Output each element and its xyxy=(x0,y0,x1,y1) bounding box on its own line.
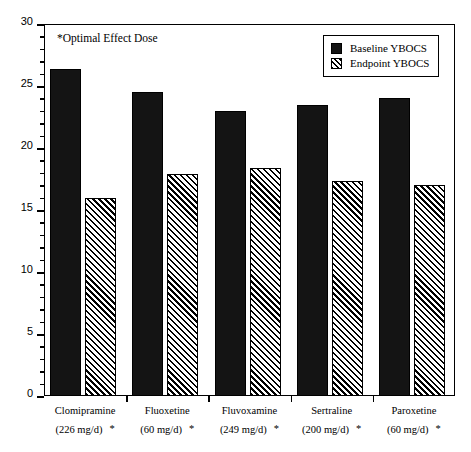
legend-label-baseline: Baseline YBOCS xyxy=(350,42,427,55)
x-axis-category-name: Paroxetine xyxy=(361,402,467,420)
bar-chart-figure: 051015202530 Clomipramine(226 mg/d)*Fluo… xyxy=(0,0,471,452)
y-axis-tick-mark xyxy=(37,210,44,212)
chart-legend: Baseline YBOCS Endpoint YBOCS xyxy=(323,35,439,77)
x-axis-category-dose: (60 mg/d)* xyxy=(361,420,467,439)
optimal-dose-star-icon: * xyxy=(436,420,441,438)
bar-endpoint xyxy=(85,198,116,396)
y-axis-tick-label: 20 xyxy=(21,140,33,151)
y-axis: 051015202530 xyxy=(0,24,44,396)
annotation-optimal-effect-dose: *Optimal Effect Dose xyxy=(57,31,158,45)
legend-swatch-endpoint-icon xyxy=(331,58,342,69)
bar-baseline xyxy=(379,98,410,396)
bar-baseline xyxy=(132,92,163,396)
y-axis-tick-mark xyxy=(37,24,44,26)
y-axis-tick-label: 5 xyxy=(27,326,33,337)
optimal-dose-star-icon: * xyxy=(189,420,194,438)
legend-label-endpoint: Endpoint YBOCS xyxy=(350,57,429,70)
y-axis-tick-mark xyxy=(37,86,44,88)
bar-endpoint xyxy=(414,185,445,396)
y-axis-tick-label: 10 xyxy=(21,264,33,275)
y-axis-tick-mark xyxy=(37,148,44,150)
y-axis-tick-mark xyxy=(37,334,44,336)
y-axis-tick-mark xyxy=(37,396,44,398)
y-axis-tick-label: 25 xyxy=(21,78,33,89)
bar-baseline xyxy=(50,69,81,396)
y-axis-tick-label: 15 xyxy=(21,202,33,213)
bar-endpoint xyxy=(167,174,198,396)
legend-swatch-baseline-icon xyxy=(331,43,342,54)
bar-endpoint xyxy=(332,181,363,396)
bar-baseline xyxy=(215,111,246,396)
legend-item-endpoint: Endpoint YBOCS xyxy=(331,56,429,71)
bar-endpoint xyxy=(250,168,281,396)
y-axis-tick-label: 30 xyxy=(21,16,33,27)
bars-layer xyxy=(44,24,455,396)
y-axis-tick-mark xyxy=(37,272,44,274)
y-axis-tick-label: 0 xyxy=(27,388,33,399)
x-axis-category-paroxetine: Paroxetine(60 mg/d)* xyxy=(361,402,467,439)
bar-baseline xyxy=(297,105,328,396)
legend-item-baseline: Baseline YBOCS xyxy=(331,41,429,56)
x-axis-labels: Clomipramine(226 mg/d)*Fluoxetine(60 mg/… xyxy=(44,402,455,452)
